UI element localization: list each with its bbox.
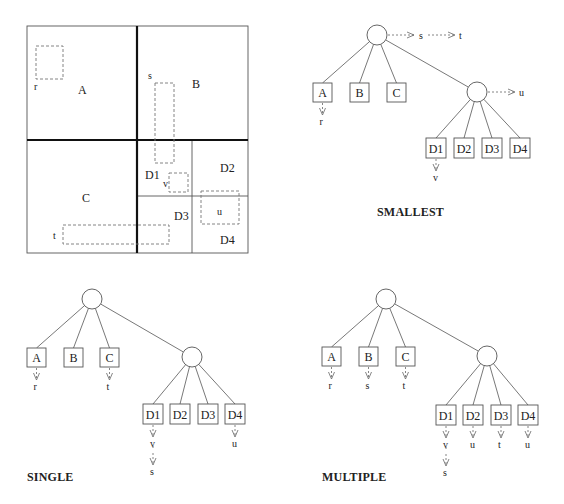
tree-edge: [436, 99, 470, 138]
quadtree-figure: rsvutABCD1D2D3D4 stuArBCD1vD2D3D4SMALLES…: [0, 0, 564, 504]
tree-edge: [74, 308, 89, 348]
tree-edge: [332, 306, 379, 347]
object-label-t: t: [53, 230, 56, 241]
root-node: [376, 289, 396, 309]
tree-title-multiple: MULTIPLE: [322, 470, 387, 484]
object-bbox-s: [155, 83, 174, 163]
root-node: [82, 289, 102, 309]
object-label-u: u: [217, 206, 222, 217]
tree-smallest: stuArBCD1vD2D3D4SMALLEST: [313, 25, 530, 219]
tree-title-smallest: SMALLEST: [377, 205, 444, 219]
tree-edge: [360, 44, 374, 83]
leaf-label: D4: [521, 409, 536, 423]
object-ref-t: t: [459, 30, 462, 41]
tree-edge: [323, 42, 370, 83]
region-label-b: B: [192, 77, 200, 91]
object-ref-s: s: [443, 467, 447, 478]
tree-edge: [199, 364, 235, 404]
leaf-label: D1: [146, 408, 161, 422]
object-ref-r: r: [329, 380, 333, 391]
leaf-label: D2: [466, 409, 481, 423]
leaf-label: D2: [173, 408, 188, 422]
tree-edge: [480, 102, 492, 138]
tree-edge: [395, 304, 479, 351]
region-label-d2: D2: [220, 161, 235, 175]
leaf-label: D3: [201, 408, 216, 422]
leaf-label: C: [401, 350, 409, 364]
tree-edge: [381, 44, 397, 83]
region-label-a: A: [78, 83, 87, 97]
tree-edge: [386, 40, 469, 87]
object-ref-t: t: [403, 380, 406, 391]
tree-edge: [446, 364, 481, 405]
object-ref-v: v: [443, 439, 448, 450]
leaf-label: C: [392, 86, 400, 100]
leaf-label: A: [32, 351, 41, 365]
object-label-v: v: [163, 178, 168, 189]
object-ref-r: r: [320, 116, 324, 127]
object-label-s: s: [148, 70, 152, 81]
object-ref-u: u: [519, 87, 524, 98]
leaf-label: D4: [228, 408, 243, 422]
object-label-r: r: [34, 81, 38, 92]
tree-edge: [95, 308, 109, 348]
leaf-label: C: [105, 351, 113, 365]
region-label-d4: D4: [220, 233, 235, 247]
object-ref-u: u: [525, 439, 530, 450]
tree-edge: [484, 99, 520, 138]
internal-node-d: [182, 347, 202, 367]
tree-edge: [464, 102, 474, 138]
diagram-canvas: rsvutABCD1D2D3D4 stuArBCD1vD2D3D4SMALLES…: [0, 0, 564, 504]
quadtree-variants: stuArBCD1vD2D3D4SMALLESTArBCtD1vsD2D3D4u…: [27, 25, 538, 484]
tree-edge: [473, 366, 484, 405]
space-partition-grid: rsvutABCD1D2D3D4: [27, 26, 248, 253]
leaf-label: D2: [457, 142, 472, 156]
tree-edge: [180, 367, 190, 404]
tree-edge: [390, 308, 406, 347]
tree-edge: [153, 365, 186, 404]
tree-title-single: SINGLE: [27, 470, 74, 484]
tree-edge: [101, 304, 184, 352]
object-bbox-v: [169, 173, 188, 192]
object-ref-v: v: [150, 438, 155, 449]
tree-multiple: ArBsCtD1vsD2uD3tD4uMULTIPLE: [322, 289, 538, 484]
root-node: [367, 25, 387, 45]
object-ref-s: s: [150, 466, 154, 477]
leaf-label: D1: [429, 142, 444, 156]
region-label-d1: D1: [145, 168, 160, 182]
tree-edge: [37, 306, 85, 348]
object-ref-t: t: [498, 439, 501, 450]
object-ref-u: u: [470, 439, 475, 450]
tree-edge: [369, 308, 383, 347]
region-label-c: C: [82, 191, 90, 205]
object-bbox-r: [36, 46, 63, 79]
object-ref-t: t: [107, 381, 110, 392]
object-ref-v: v: [433, 172, 438, 183]
leaf-label: D1: [439, 409, 454, 423]
tree-edge: [493, 364, 528, 405]
leaf-label: A: [318, 86, 327, 100]
object-ref-r: r: [34, 381, 38, 392]
internal-node-d: [477, 346, 497, 366]
object-ref-u: u: [232, 438, 237, 449]
object-bbox-t: [63, 225, 169, 244]
internal-node-d: [467, 82, 487, 102]
leaf-label: B: [355, 86, 363, 100]
tree-single: ArBCtD1vsD2D3D4uSINGLE: [27, 289, 245, 484]
leaf-label: D3: [494, 409, 509, 423]
tree-edge: [490, 366, 501, 405]
region-label-d3: D3: [174, 209, 189, 223]
leaf-label: D3: [485, 142, 500, 156]
object-ref-s: s: [366, 380, 370, 391]
object-ref-s: s: [419, 30, 423, 41]
leaf-label: B: [69, 351, 77, 365]
leaf-label: D4: [513, 142, 528, 156]
leaf-label: A: [327, 350, 336, 364]
leaf-label: B: [364, 350, 372, 364]
